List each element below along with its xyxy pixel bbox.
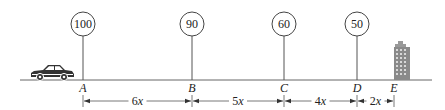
point-label-a: A: [78, 81, 87, 95]
point-label-b: B: [188, 81, 196, 95]
dimension-lines: 6x5x4x2x: [84, 94, 393, 108]
segment-cd: 4x: [285, 94, 356, 108]
speed-sign-b: 90: [180, 12, 204, 80]
segment-length-label: 2x: [370, 94, 382, 108]
speed-limit-value: 90: [186, 17, 198, 31]
speed-limit-value: 50: [351, 17, 363, 31]
arrowhead-right-icon: [387, 99, 393, 103]
arrowhead-left-icon: [285, 99, 291, 103]
speed-sign-c: 60: [272, 12, 296, 80]
segment-de: 2x: [358, 94, 393, 108]
speed-sign-d: 50: [345, 12, 369, 80]
arrowhead-left-icon: [193, 99, 199, 103]
speed-limit-value: 100: [74, 17, 92, 31]
speed-limit-value: 60: [278, 17, 290, 31]
building-icon: [394, 41, 410, 80]
arrowhead-right-icon: [277, 99, 283, 103]
point-label-e: E: [389, 81, 398, 95]
arrowhead-right-icon: [185, 99, 191, 103]
road-speed-diagram: 100906050 ABCDE 6x5x4x2x: [0, 0, 445, 110]
segment-length-label: 6x: [132, 94, 144, 108]
arrowhead-left-icon: [358, 99, 364, 103]
segment-length-label: 4x: [315, 94, 327, 108]
point-label-c: C: [280, 81, 289, 95]
point-label-d: D: [352, 81, 362, 95]
arrowhead-right-icon: [350, 99, 356, 103]
speed-sign-a: 100: [71, 12, 95, 80]
segment-length-label: 5x: [232, 94, 244, 108]
segment-ab: 6x: [84, 94, 191, 108]
car-icon: [31, 65, 74, 81]
segment-bc: 5x: [193, 94, 283, 108]
arrowhead-left-icon: [84, 99, 90, 103]
speed-signs: 100906050: [71, 12, 369, 80]
